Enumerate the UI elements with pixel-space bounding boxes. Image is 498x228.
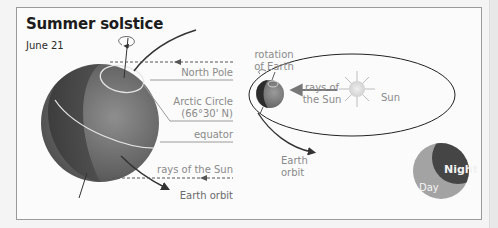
rotation-icon [119, 37, 135, 47]
label-rays-of: rays of [300, 82, 344, 94]
legend-night-label: Night [444, 163, 478, 176]
label-of-earth: of Earth [246, 61, 302, 73]
sun-icon [339, 71, 375, 107]
diagram-title: Summer solstice [26, 15, 163, 33]
label-arctic-circle-latitude: (66°30' N) [165, 108, 233, 119]
label-north-pole: North Pole [180, 67, 233, 78]
label-equator: equator [165, 129, 233, 140]
small-earth-axis [272, 72, 275, 80]
night-area [432, 132, 484, 184]
ray-bottom-arrow [200, 175, 207, 181]
orbit-arc-top [134, 30, 196, 71]
label-rotation: rotation [246, 49, 302, 61]
earth-globe-small [256, 80, 284, 108]
small-orbit-arrow [258, 113, 312, 152]
label-the-sun: the Sun [300, 94, 344, 106]
label-earth-orbit: Earth orbit [165, 190, 233, 201]
earth-globe-large [41, 62, 160, 182]
legend-day-label: Day [419, 182, 439, 193]
label-arctic-circle: Arctic Circle [165, 96, 233, 107]
label-sun: Sun [381, 92, 400, 103]
label-rays-of-sun: rays of the Sun [145, 164, 233, 175]
ray-top-arrow [174, 59, 181, 65]
label-earth: Earth [281, 155, 308, 167]
label-orbit: orbit [281, 167, 304, 179]
diagram-subtitle: June 21 [26, 40, 64, 51]
small-earth-axis-bottom [260, 107, 263, 114]
